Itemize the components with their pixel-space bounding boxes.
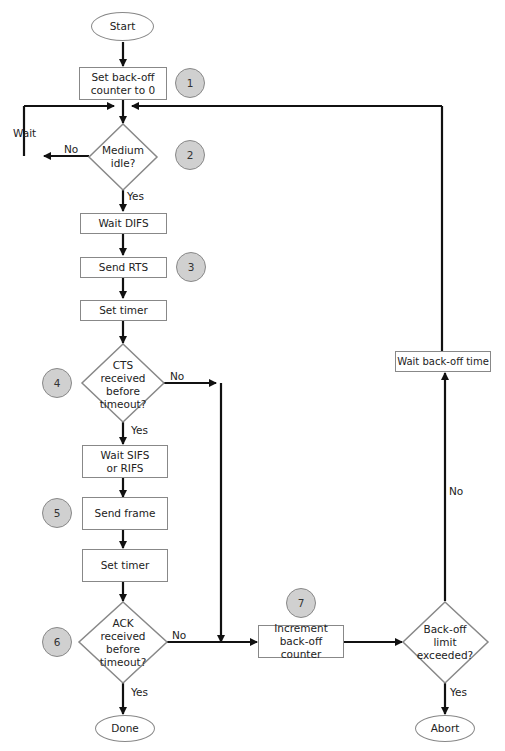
increment-counter-label: Increment back-off counter xyxy=(260,625,342,658)
cts-received-label: CTS received before timeout? xyxy=(96,358,150,412)
send-frame-label: Send frame xyxy=(82,497,168,530)
abort-label: Abort xyxy=(415,715,475,742)
wait-difs-label: Wait DIFS xyxy=(80,213,167,234)
medium-idle-label: Medium idle? xyxy=(96,140,150,174)
done-label: Done xyxy=(95,715,155,742)
edge-label-medium-no: No xyxy=(64,143,78,155)
start-label: Start xyxy=(91,12,154,41)
edge-label-limit-yes: Yes xyxy=(450,686,467,698)
step-badge-4: 4 xyxy=(42,368,72,398)
edge-label-cts-no: No xyxy=(170,370,184,382)
step-badge-1: 1 xyxy=(175,68,205,98)
wait-sifs-label: Wait SIFS or RIFS xyxy=(96,445,154,478)
edge-label-ack-yes: Yes xyxy=(131,686,148,698)
edge-label-limit-no: No xyxy=(449,485,463,497)
step-badge-5: 5 xyxy=(42,498,72,528)
ack-received-label: ACK received before timeout? xyxy=(96,616,150,670)
step-badge-6: 6 xyxy=(42,627,72,657)
edge-label-wait: Wait xyxy=(13,127,36,139)
send-rts-label: Send RTS xyxy=(80,257,167,278)
step-badge-2: 2 xyxy=(175,140,205,170)
step-badge-3: 3 xyxy=(176,252,206,282)
step-badge-7: 7 xyxy=(286,588,316,618)
wait-backoff-label: Wait back-off time xyxy=(395,351,491,372)
set-timer-2-label: Set timer xyxy=(82,549,168,582)
set-counter-label: Set back-off counter to 0 xyxy=(83,67,163,100)
edge-label-medium-yes: Yes xyxy=(127,190,144,202)
set-timer-1-label: Set timer xyxy=(80,300,167,321)
backoff-limit-label: Back-off limit exceeded? xyxy=(413,618,477,666)
edge-label-cts-yes: Yes xyxy=(131,424,148,436)
edge-label-ack-no: No xyxy=(172,629,186,641)
